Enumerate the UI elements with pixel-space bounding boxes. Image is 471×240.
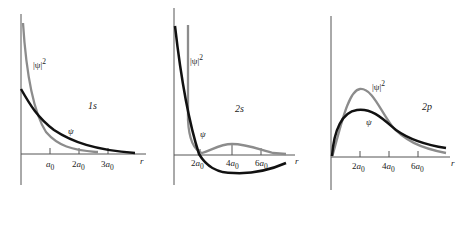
psi-squared-label-2s: |ψ|2 <box>190 54 203 66</box>
psi-sq-text: |ψ| <box>33 60 42 70</box>
orbital-label-2p: 2p <box>422 102 432 112</box>
r-axis-label-2s: r <box>295 157 299 166</box>
orbital-label-2s: 2s <box>235 104 244 114</box>
tick-label-4a0: 4a0 <box>382 162 395 173</box>
orbital-label-1s: 1s <box>88 101 97 111</box>
psi-label-2s: ψ <box>200 130 206 139</box>
tick-sub: 0 <box>264 162 268 171</box>
psi-sq-text: |ψ| <box>190 56 199 66</box>
psi-sq-text: |ψ| <box>372 82 381 92</box>
tick-sub: 0 <box>235 162 239 171</box>
tick-label-6a0: 6a0 <box>411 162 424 173</box>
tick-sub: 0 <box>110 163 114 172</box>
tick-label-6a0: 6a0 <box>255 159 268 170</box>
r-axis-label-1s: r <box>140 157 144 166</box>
tick-sub: 0 <box>200 162 204 171</box>
tick-sub: 0 <box>420 165 424 174</box>
tick-label-a0: a0 <box>46 160 54 171</box>
r-axis-label-2p: r <box>451 159 455 168</box>
psi-curve <box>21 89 135 153</box>
tick-label-2a0: 2a0 <box>72 160 85 171</box>
psi-sq-exponent: 2 <box>42 57 46 66</box>
tick-label-2a0: 2a0 <box>191 159 204 170</box>
psi-sq-exponent: 2 <box>199 53 203 62</box>
tick-sub: 0 <box>391 165 395 174</box>
tick-sub: 0 <box>51 163 55 172</box>
tick-sub: 0 <box>81 163 85 172</box>
psi-label-2p: ψ <box>366 118 372 127</box>
psi-sq-exponent: 2 <box>381 79 385 88</box>
psi-squared-label-2p: |ψ|2 <box>372 80 385 92</box>
tick-label-4a0: 4a0 <box>226 159 239 170</box>
tick-sub: 0 <box>361 165 365 174</box>
psi-squared-label-1s: |ψ|2 <box>33 58 46 70</box>
psi-label-1s: ψ <box>68 127 74 136</box>
tick-label-3a0: 3a0 <box>101 160 114 171</box>
tick-label-2a0: 2a0 <box>352 162 365 173</box>
